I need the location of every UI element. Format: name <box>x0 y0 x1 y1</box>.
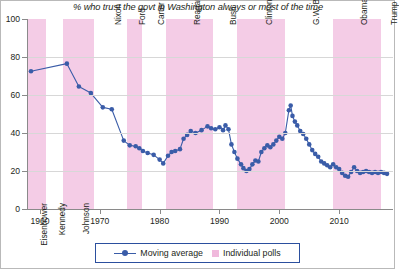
data-point <box>145 151 150 156</box>
data-point <box>137 146 142 151</box>
gridline-60 <box>28 95 393 96</box>
x-tick-1970 <box>100 209 101 214</box>
x-tick-1980 <box>160 209 161 214</box>
data-point <box>293 119 298 124</box>
data-point <box>290 114 295 119</box>
y-tick-100 <box>22 19 27 20</box>
data-point <box>288 103 293 108</box>
data-point <box>239 162 244 167</box>
x-tick-label-1970: 1970 <box>90 216 109 226</box>
swatch-icon <box>212 250 219 257</box>
data-point <box>304 136 309 141</box>
data-point <box>221 128 226 133</box>
x-tick-label-1960: 1960 <box>30 216 49 226</box>
data-point <box>199 128 204 133</box>
data-point <box>295 123 300 128</box>
line-marker-icon <box>114 249 136 258</box>
president-label-carter: Carter <box>157 2 166 25</box>
data-point <box>229 142 234 147</box>
y-tick-label-20: 20 <box>0 166 20 176</box>
y-tick-label-100: 100 <box>0 14 20 24</box>
president-label-obama: Obama <box>360 0 369 25</box>
data-point <box>209 126 214 131</box>
data-point <box>310 148 315 153</box>
data-point <box>213 127 218 132</box>
data-point <box>173 149 178 154</box>
data-point <box>346 174 351 179</box>
x-tick-label-1990: 1990 <box>210 216 229 226</box>
data-point <box>280 136 285 141</box>
president-label-kennedy: Kennedy <box>58 203 67 235</box>
data-point <box>259 150 264 155</box>
president-label-clinton: Clinton <box>265 0 274 25</box>
legend-label-moving-average: Moving average <box>140 248 203 258</box>
y-tick-40 <box>22 133 27 134</box>
x-tick-2010 <box>339 209 340 214</box>
chart-legend: Moving average Individual polls <box>95 243 300 263</box>
data-point <box>151 153 156 158</box>
legend-item-individual-polls: Individual polls <box>212 248 281 258</box>
gridline-80 <box>28 57 393 58</box>
x-tick-label-1980: 1980 <box>150 216 169 226</box>
x-tick-2000 <box>279 209 280 214</box>
data-point <box>352 165 357 170</box>
data-point <box>316 154 321 159</box>
y-tick-label-40: 40 <box>0 128 20 138</box>
gridline-40 <box>28 133 393 134</box>
president-label-trump: Trump <box>390 2 399 25</box>
data-point <box>287 108 292 113</box>
data-point <box>161 161 166 166</box>
president-label-nixon: Nixon <box>114 4 123 25</box>
plot-area <box>28 19 393 209</box>
y-axis-labels: 020406080100 <box>0 0 20 270</box>
data-point <box>250 162 255 167</box>
data-point <box>178 147 183 152</box>
data-point <box>223 123 228 128</box>
y-tick-label-0: 0 <box>0 204 20 214</box>
data-point <box>109 107 114 112</box>
data-point <box>232 150 237 155</box>
x-tick-1960 <box>40 209 41 214</box>
data-point <box>29 69 34 74</box>
x-tick-label-2010: 2010 <box>330 216 349 226</box>
data-point <box>256 159 261 164</box>
series-plot <box>28 19 393 209</box>
data-point <box>385 172 390 177</box>
x-tick-1990 <box>219 209 220 214</box>
data-point <box>235 156 240 161</box>
y-tick-label-60: 60 <box>0 90 20 100</box>
data-point <box>157 157 162 162</box>
legend-label-individual-polls: Individual polls <box>223 248 281 258</box>
series-moving-average <box>28 19 393 209</box>
data-point <box>307 142 312 147</box>
data-point <box>127 143 132 148</box>
president-label-bush: Bush <box>229 6 238 25</box>
legend-item-moving-average: Moving average <box>114 248 203 258</box>
data-point <box>181 136 186 141</box>
y-tick-20 <box>22 171 27 172</box>
data-point <box>65 61 70 66</box>
president-label-ford: Ford <box>138 8 147 25</box>
data-point <box>121 138 126 143</box>
y-tick-60 <box>22 95 27 96</box>
y-tick-80 <box>22 57 27 58</box>
data-point <box>271 142 276 147</box>
data-point <box>101 105 106 110</box>
series-line <box>31 64 387 177</box>
data-point <box>77 84 82 89</box>
gridline-20 <box>28 171 393 172</box>
president-label-g-w-bush: G.W. Bush <box>312 0 321 25</box>
x-tick-label-2000: 2000 <box>270 216 289 226</box>
president-label-reagan: Reagan <box>193 0 202 25</box>
y-tick-label-80: 80 <box>0 52 20 62</box>
data-point <box>166 154 171 159</box>
data-point <box>274 138 279 143</box>
data-point <box>141 149 146 154</box>
data-point <box>226 127 231 132</box>
data-point <box>217 125 222 130</box>
y-tick-0 <box>22 209 27 210</box>
